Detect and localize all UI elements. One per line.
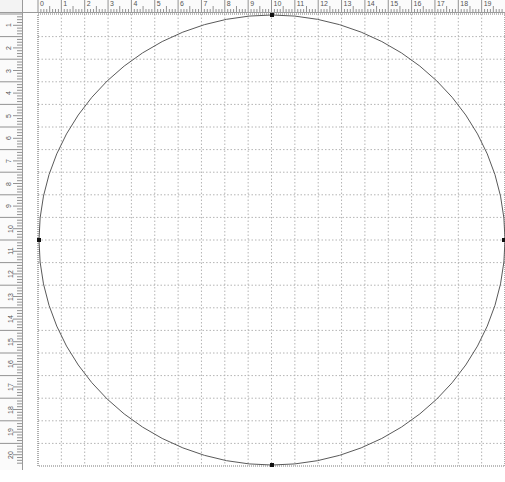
ruler-h-label: 18 — [460, 0, 468, 8]
ruler-v-label: 15 — [7, 338, 15, 346]
ruler-h-label: 4 — [133, 0, 137, 8]
ruler-v-label: 8 — [5, 182, 13, 186]
ruler-v-label: 4 — [5, 91, 13, 95]
ruler-h-label: 2 — [87, 0, 91, 8]
ruler-h-label: 10 — [274, 0, 282, 8]
ruler-v-label: 17 — [7, 383, 15, 391]
ruler-h-label: 11 — [297, 0, 304, 8]
ruler-v-label: 20 — [7, 451, 15, 459]
ruler-h-label: 12 — [320, 0, 328, 8]
ruler-v-label: 10 — [7, 225, 15, 233]
page-drawing[interactable] — [0, 0, 505, 482]
ruler-h-label: 19 — [484, 0, 492, 8]
ruler-v-label: 18 — [7, 406, 15, 414]
ruler-h-label: 7 — [203, 0, 207, 8]
horizontal-ruler[interactable]: 012345678910111213141516171819 — [0, 0, 505, 13]
anchor-handle-bottom[interactable] — [270, 463, 274, 467]
ruler-v-label: 11 — [7, 248, 15, 255]
ruler-v-label: 7 — [5, 159, 13, 163]
ruler-h-label: 3 — [110, 0, 114, 8]
ruler-v-label: 3 — [5, 69, 13, 73]
ruler-h-label: 9 — [250, 0, 254, 8]
ruler-h-label: 0 — [40, 0, 44, 8]
ruler-h-label: 1 — [63, 0, 67, 8]
ruler-v-label: 16 — [7, 360, 15, 368]
ruler-corner — [0, 0, 23, 13]
ruler-h-label: 13 — [344, 0, 352, 8]
ruler-h-label: 15 — [390, 0, 398, 8]
anchor-handle-top[interactable] — [270, 13, 274, 17]
ruler-v-label: 6 — [5, 136, 13, 140]
ruler-h-label: 16 — [414, 0, 422, 8]
anchor-handle-left[interactable] — [37, 238, 41, 242]
ruler-h-label: 5 — [157, 0, 161, 8]
ruler-v-label: 13 — [7, 293, 15, 301]
drawing-canvas[interactable] — [0, 0, 505, 482]
ruler-h-label: 6 — [180, 0, 184, 8]
vertical-ruler[interactable]: 1234567891011121314151617181920 — [0, 0, 23, 470]
ruler-v-label: 5 — [5, 114, 13, 118]
ruler-v-label: 1 — [5, 23, 13, 27]
ruler-h-label: 17 — [437, 0, 445, 8]
ruler-v-label: 2 — [5, 46, 13, 50]
ruler-h-label: 8 — [227, 0, 231, 8]
ruler-v-label: 14 — [7, 315, 15, 323]
ruler-v-label: 19 — [7, 428, 15, 436]
ruler-v-label: 9 — [5, 204, 13, 208]
ruler-h-label: 14 — [367, 0, 375, 8]
ruler-v-label: 12 — [7, 270, 15, 278]
